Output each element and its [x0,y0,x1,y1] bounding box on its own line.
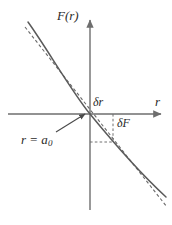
x-axis-label: r [155,95,160,108]
diagram-canvas [0,0,172,225]
equilibrium-label-subscript: 0 [48,138,53,148]
equilibrium-pointer-arrow [56,114,85,132]
delta-r-label: δr [93,96,103,108]
equilibrium-label: r = a0 [21,133,53,148]
force-curve [28,22,166,197]
y-axis-label: F(r) [57,9,79,22]
linear-approximation-line [25,27,167,207]
equilibrium-label-text: r = a [21,132,48,147]
force-vs-separation-diagram: F(r) r δr δF r = a0 [0,0,172,225]
delta-F-label: δF [117,117,130,129]
